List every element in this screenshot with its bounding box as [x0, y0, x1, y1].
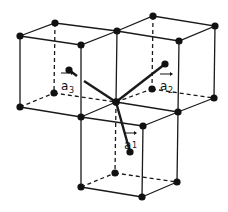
svg-text:a: a [160, 79, 167, 93]
vector-a2 [116, 64, 165, 102]
svg-text:2: 2 [168, 86, 173, 95]
svg-text:3: 3 [69, 86, 74, 95]
label-a3: a 3 [61, 71, 74, 95]
svg-text:a: a [61, 79, 68, 93]
vector-a3 [84, 81, 116, 102]
svg-text:a: a [124, 138, 131, 152]
label-a2: a 2 [160, 72, 173, 95]
svg-text:1: 1 [132, 141, 137, 150]
lattice-diagram: a 3 a 2 a 1 [0, 0, 228, 212]
